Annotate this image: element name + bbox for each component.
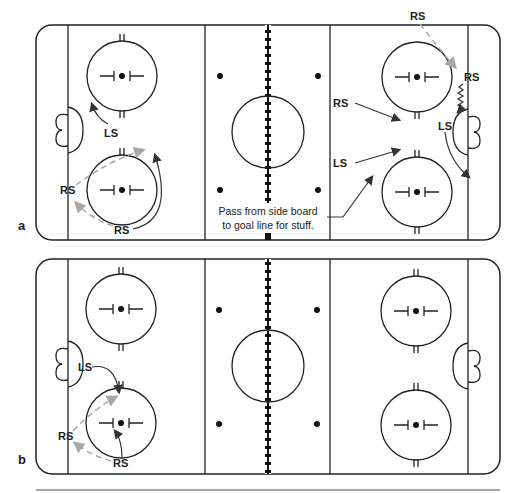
annotation-line-1: Pass from side board — [218, 205, 317, 217]
player-label-ls: LS — [104, 127, 118, 139]
neutral-dot — [315, 187, 321, 193]
neutral-dot — [314, 421, 320, 427]
hockey-rink-diagram: LS RS RS RS RS RS LS LS Pass from side b… — [0, 0, 522, 493]
player-label-rs: RS — [114, 224, 129, 236]
rink-panel-a: LS RS RS RS RS RS LS LS Pass from side b… — [18, 10, 500, 240]
player-label-rs: RS — [464, 71, 479, 83]
rink-panel-b: LS RS RS b — [18, 259, 500, 474]
player-label-rs: RS — [60, 184, 75, 196]
neutral-dot — [216, 307, 222, 313]
player-label-rs: RS — [410, 10, 425, 22]
player-label-ls: LS — [438, 120, 452, 132]
center-red-line — [265, 259, 271, 474]
player-label-rs: RS — [58, 430, 73, 442]
player-label-rs: RS — [333, 97, 348, 109]
player-label-rs: RS — [113, 457, 128, 469]
neutral-dot — [315, 73, 321, 79]
annotation-line-2: to goal line for stuff. — [222, 219, 313, 231]
neutral-dot — [217, 73, 223, 79]
neutral-dot — [216, 421, 222, 427]
neutral-dot — [314, 307, 320, 313]
neutral-dot — [217, 187, 223, 193]
player-label-ls: LS — [78, 361, 92, 373]
player-label-ls: LS — [333, 157, 347, 169]
panel-label: b — [18, 452, 26, 467]
center-red-line — [265, 25, 271, 210]
center-red-line-end — [265, 232, 271, 240]
panel-label: a — [18, 218, 26, 233]
